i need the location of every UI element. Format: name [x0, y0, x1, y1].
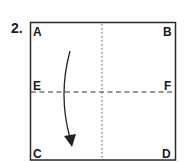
label-c: C	[33, 147, 42, 161]
curved-arrow-down-icon	[64, 51, 76, 147]
label-e: E	[33, 79, 41, 93]
fold-diagram: 2. A B E F C D	[0, 0, 185, 162]
label-a: A	[33, 25, 42, 39]
paper-square	[31, 23, 176, 161]
step-number: 2.	[11, 20, 23, 36]
label-b: B	[163, 25, 172, 39]
label-d: D	[162, 147, 171, 161]
label-f: F	[164, 79, 171, 93]
